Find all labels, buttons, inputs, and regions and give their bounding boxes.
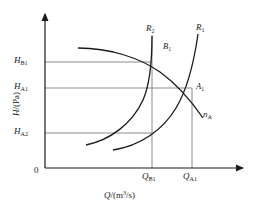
y-tick-label-ha1: HA1 — [14, 82, 28, 91]
pump-characteristic-figure: HB1 HA1 HA2 H/(Pa) 0 QB1 QA1 Q/(m3/s) R2… — [0, 0, 257, 212]
figure-canvas — [0, 0, 257, 212]
x-tick-label-qb1: QB1 — [142, 172, 156, 181]
y-tick-label-hb1: HB1 — [14, 56, 28, 65]
origin-label: 0 — [34, 166, 39, 175]
curve-label-na: nA — [203, 110, 212, 119]
resistance-curve-r2 — [86, 36, 152, 145]
point-label-b1: B1 — [163, 42, 171, 51]
pump-curve-na — [78, 48, 203, 118]
x-axis-title: Q/(m3/s) — [104, 191, 135, 200]
x-tick-label-qa1: QA1 — [183, 172, 197, 181]
curve-label-r2: R2 — [146, 24, 155, 33]
point-label-a1: A1 — [196, 82, 204, 91]
curve-label-r1: R1 — [196, 23, 205, 32]
y-tick-label-ha2: HA2 — [14, 127, 28, 136]
y-axis-title: H/(Pa) — [12, 92, 21, 116]
